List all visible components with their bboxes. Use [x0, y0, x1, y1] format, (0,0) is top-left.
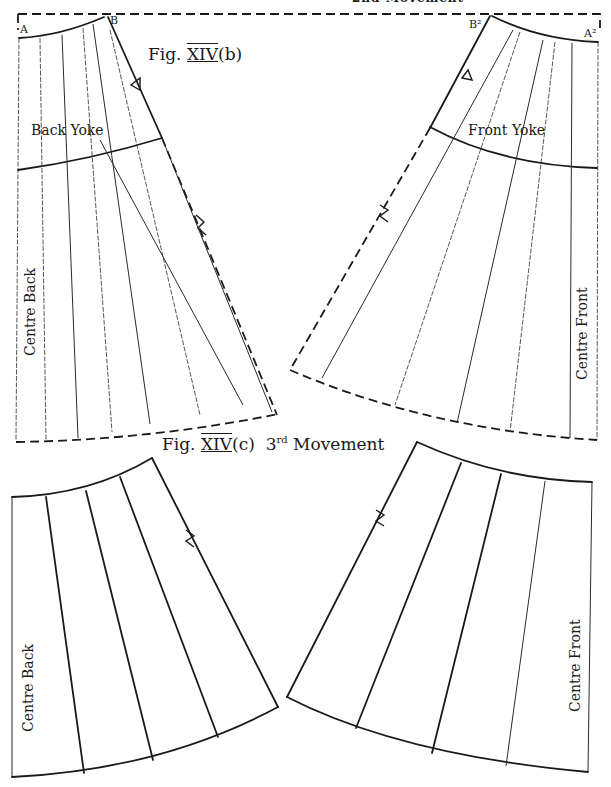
fig-b-title-prefix: Fig. — [148, 44, 182, 64]
fig-c-movement-label: Movement — [293, 434, 384, 454]
header-cutoff-text: 2nd Movement — [352, 0, 464, 5]
fig-c-title: Fig. XIV(c) 3rd Movement — [162, 434, 384, 454]
point-a2-label: A² — [584, 27, 596, 40]
fig-b-centre-front-label: Centre Front — [574, 287, 590, 380]
fig-b-title: Fig. XIV(b) — [148, 44, 242, 64]
fig-c-title-suffix: (c) — [232, 434, 255, 454]
front-yoke-label: Front Yoke — [468, 122, 545, 138]
fig-b-centre-back-label: Centre Back — [22, 268, 38, 356]
fig-b-back-piece — [16, 17, 278, 442]
point-b2-label: B² — [469, 18, 482, 31]
fig-b-title-numeral: XIV — [187, 44, 218, 64]
fig-c-movement-sup: rd — [276, 434, 287, 445]
point-b-label: B — [110, 14, 118, 27]
fig-b-dashed-frame — [18, 14, 600, 30]
fig-b-title-suffix: (b) — [218, 44, 242, 64]
fig-c-title-prefix: Fig. — [162, 434, 196, 454]
fig-c-front-piece — [287, 442, 592, 772]
fig-c-centre-front-label: Centre Front — [567, 619, 583, 712]
fig-c-centre-back-label: Centre Back — [20, 644, 36, 732]
fig-c-title-numeral: XIV — [201, 434, 232, 454]
back-yoke-label: Back Yoke — [31, 122, 104, 138]
pattern-diagram — [0, 0, 611, 787]
fig-c-back-piece — [12, 458, 278, 777]
point-a-label: A — [20, 23, 28, 36]
fig-b-front-piece — [290, 16, 598, 440]
fig-c-movement-ordinal: 3 — [266, 434, 277, 454]
